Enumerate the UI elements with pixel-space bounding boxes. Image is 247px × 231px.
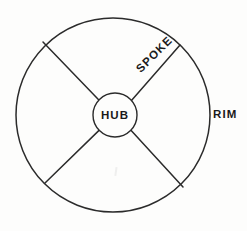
spoke-lower-left [45, 130, 100, 183]
spoke-upper-left [43, 42, 100, 101]
rim-label: RIM [213, 108, 237, 120]
wheel-diagram: HUB SPOKE RIM [0, 0, 247, 231]
hub-label: HUB [101, 109, 129, 121]
spoke-lower-right [131, 130, 184, 187]
scan-artifact [114, 167, 117, 176]
wheel-diagram-canvas: HUB SPOKE RIM [0, 0, 247, 231]
spoke-label: SPOKE [134, 34, 175, 75]
